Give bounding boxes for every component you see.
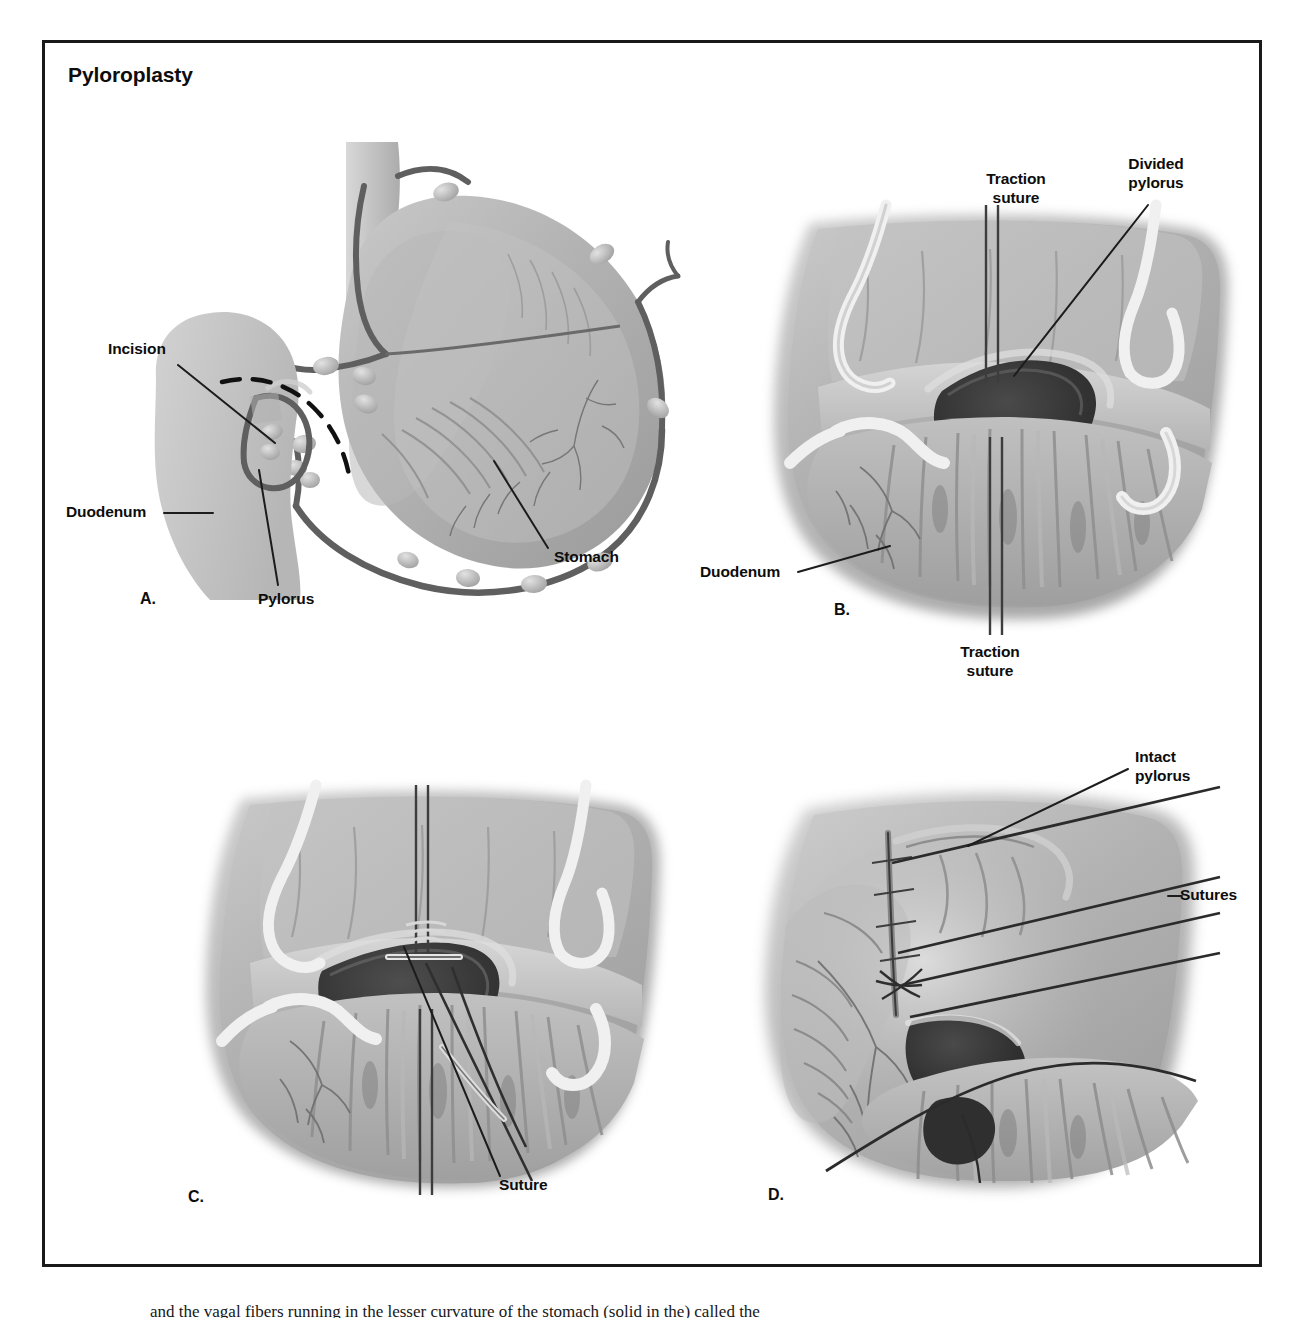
figure-page: Pyloroplasty: [0, 0, 1294, 1318]
label-pylorus: Pylorus: [258, 590, 314, 609]
panel-letter-b: B.: [834, 601, 850, 619]
page-title: Pyloroplasty: [68, 63, 193, 87]
panel-d-illustration: [700, 785, 1220, 1195]
panel-letter-c: C.: [188, 1188, 204, 1206]
panel-letter-d: D.: [768, 1186, 784, 1204]
figure-caption-cutoff: and the vagal fibers running in the less…: [150, 1302, 1150, 1318]
label-suture: Suture: [499, 1176, 548, 1195]
label-sutures: Sutures: [1180, 886, 1237, 905]
label-divided-pylorus: Divided pylorus: [1108, 155, 1204, 193]
label-incision: Incision: [108, 340, 166, 359]
label-duodenum-a: Duodenum: [66, 503, 146, 522]
label-duodenum-b: Duodenum: [700, 563, 780, 582]
panel-c-illustration: [130, 785, 670, 1195]
label-traction-suture-bottom: Traction suture: [942, 643, 1038, 681]
panel-a-illustration: [150, 130, 690, 620]
panel-letter-a: A.: [140, 590, 156, 608]
label-stomach: Stomach: [554, 548, 619, 567]
label-traction-suture-top: Traction suture: [968, 170, 1064, 208]
label-intact-pylorus: Intact pylorus: [1135, 748, 1190, 786]
